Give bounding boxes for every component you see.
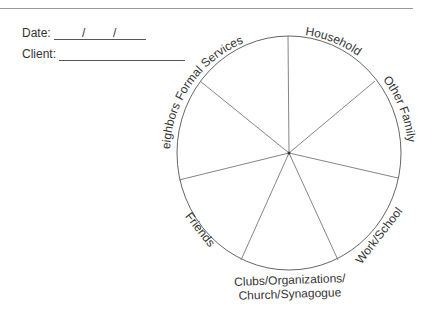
segment-label-neighbors: Neighbors	[0, 0, 183, 150]
segment-label-friends: Friends	[182, 209, 218, 249]
segment-label-formal-services: Formal Services	[172, 33, 245, 103]
segment-label-clubs-line2: Church/Synagogue	[238, 285, 341, 303]
support-wheel: Formal Services Household Other Family N…	[0, 0, 435, 314]
segment-label-household: Household	[305, 24, 365, 58]
wheel-spokes	[179, 36, 398, 260]
segment-label-work-school: Work/School	[352, 205, 405, 267]
